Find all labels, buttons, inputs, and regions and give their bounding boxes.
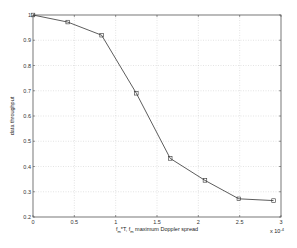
y-tick-label: 0.6	[23, 113, 31, 119]
grid-lines	[33, 15, 281, 217]
y-tick-label: 0.8	[23, 63, 31, 69]
x-tick-label: 2.5	[236, 219, 244, 225]
data-series	[31, 13, 275, 202]
x-axis-label: fm*T, fm maximum Doppler spread	[116, 226, 198, 234]
y-tick-label: 0.2	[23, 214, 31, 220]
y-tick-label: 0.7	[23, 88, 31, 94]
y-axis-label: data throughput	[9, 96, 15, 135]
y-tick-label: 0.5	[23, 138, 31, 144]
axis-ticks: 00.511.522.530.20.30.40.50.60.70.80.91	[23, 12, 282, 225]
x-tick-label: 1.5	[153, 219, 161, 225]
y-tick-label: 0.9	[23, 37, 31, 43]
series-line	[33, 15, 274, 201]
y-tick-label: 1	[28, 12, 31, 18]
x-tick-label: 0.5	[71, 219, 79, 225]
x-tick-label: 3	[279, 219, 282, 225]
x-tick-label: 0	[31, 219, 34, 225]
line-chart: 00.511.522.530.20.30.40.50.60.70.80.91 f…	[0, 0, 297, 248]
x-tick-label: 2	[197, 219, 200, 225]
y-tick-label: 0.4	[23, 164, 31, 170]
x-tick-label: 1	[114, 219, 117, 225]
y-tick-label: 0.3	[23, 189, 31, 195]
x-multiplier: x 10-4	[270, 227, 285, 235]
